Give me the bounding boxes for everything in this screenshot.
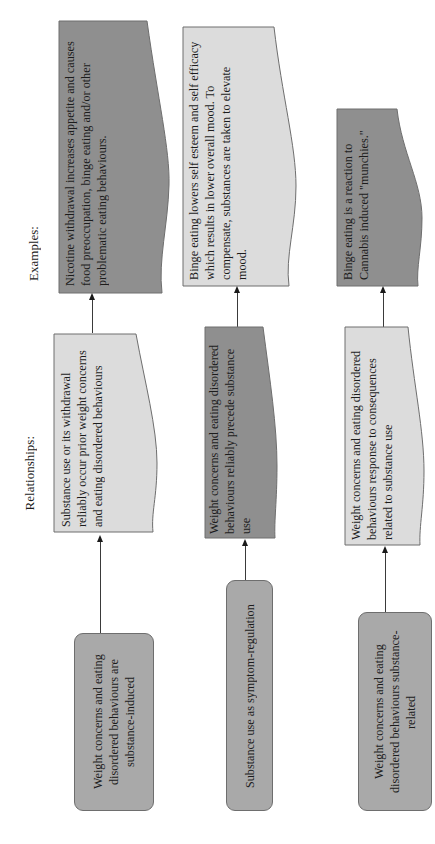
arrow-cat3-to-rel3 bbox=[385, 553, 386, 613]
arrow-rel2-to-ex2 bbox=[237, 293, 238, 327]
category-box-1: Weight concerns and eating disordered be… bbox=[74, 633, 154, 811]
example-text-1: Nicotine withdrawal increases appetite a… bbox=[62, 30, 110, 286]
arrow-rel3-to-ex3 bbox=[383, 293, 384, 327]
arrowhead-icon bbox=[380, 286, 386, 293]
arrowhead-icon bbox=[89, 293, 95, 300]
arrow-rel1-to-ex1 bbox=[92, 300, 93, 333]
arrowhead-icon bbox=[382, 546, 388, 553]
category-box-3: Weight concerns and eating disordered be… bbox=[358, 612, 432, 811]
relationship-box-1: Substance use or its withdrawal reliably… bbox=[53, 333, 163, 533]
examples-header: Examples: bbox=[26, 226, 42, 281]
category-box-2: Substance use as symptom-regulation bbox=[226, 580, 273, 811]
relationship-text-3: Weight concerns and eating disordered be… bbox=[348, 332, 396, 540]
arrow-cat1-to-rel1 bbox=[100, 542, 101, 634]
relationships-header: Relationships: bbox=[22, 436, 38, 510]
arrowhead-icon bbox=[234, 286, 240, 293]
relationship-text-2: Weight concerns and eating disordered be… bbox=[206, 332, 254, 534]
arrow-cat2-to-rel2 bbox=[245, 546, 246, 581]
example-text-3: Binge eating is a reaction to Cannabis i… bbox=[340, 116, 372, 280]
relationship-box-2: Weight concerns and eating disordered be… bbox=[204, 326, 280, 539]
example-text-2: Binge eating lowers self esteem and self… bbox=[186, 36, 250, 280]
example-box-3: Binge eating is a reaction to Cannabis i… bbox=[336, 108, 426, 287]
category-text-3: Weight concerns and eating disordered be… bbox=[371, 622, 419, 802]
arrowhead-icon bbox=[242, 539, 248, 546]
category-text-1: Weight concerns and eating disordered be… bbox=[90, 642, 138, 802]
relationship-text-1: Substance use or its withdrawal reliably… bbox=[58, 341, 106, 527]
example-box-1: Nicotine withdrawal increases appetite a… bbox=[58, 20, 173, 294]
category-text-2: Substance use as symptom-regulation bbox=[242, 586, 258, 806]
example-box-2: Binge eating lowers self esteem and self… bbox=[182, 26, 300, 287]
arrowhead-icon bbox=[97, 535, 103, 542]
relationship-box-3: Weight concerns and eating disordered be… bbox=[344, 326, 428, 546]
